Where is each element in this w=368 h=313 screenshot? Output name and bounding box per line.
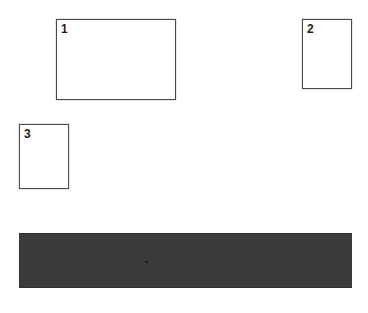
region-1[interactable]: 1 [56, 19, 176, 100]
band-speck [145, 261, 148, 263]
region-3-label: 3 [24, 128, 31, 141]
region-2[interactable]: 2 [302, 19, 352, 89]
region-3[interactable]: 3 [19, 124, 69, 189]
region-1-label: 1 [61, 23, 68, 36]
dark-band[interactable] [19, 233, 352, 288]
region-2-label: 2 [307, 23, 314, 36]
diagram-canvas: 1 2 3 [0, 0, 368, 313]
